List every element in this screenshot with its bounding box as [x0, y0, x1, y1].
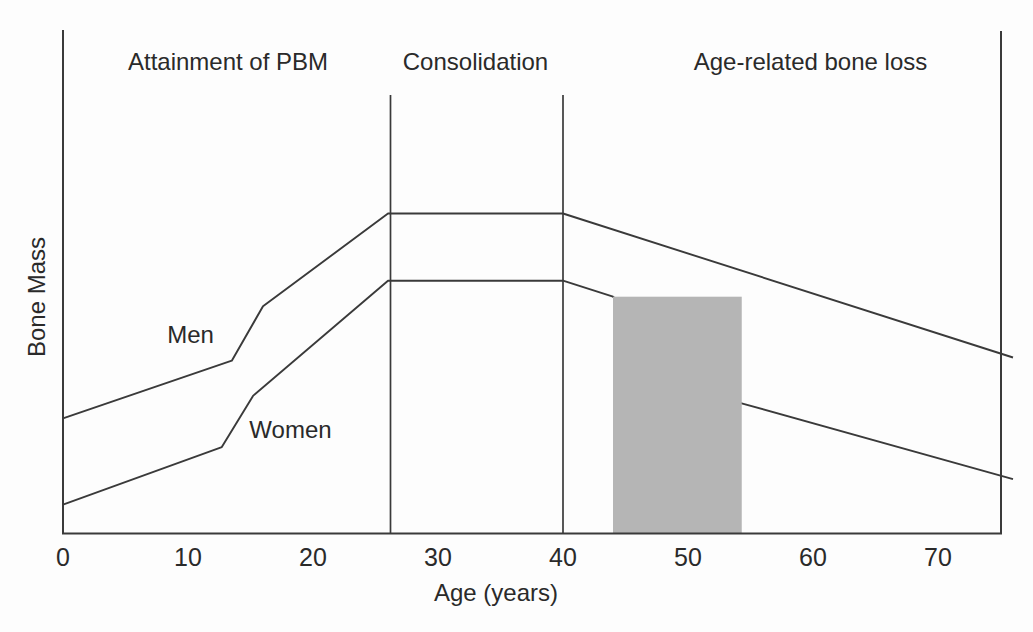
phase-label-attainment: Attainment of PBM	[128, 48, 328, 75]
men-series-label: Men	[167, 321, 214, 348]
phase-label-age-related-loss: Age-related bone loss	[694, 48, 927, 75]
x-tick-label-0: 0	[56, 543, 70, 571]
x-tick-label-50: 50	[674, 543, 702, 571]
women-series-label: Women	[249, 416, 331, 443]
bone-mass-age-chart: Attainment of PBM Consolidation Age-rela…	[0, 0, 1033, 632]
women-curve	[63, 281, 1013, 505]
y-axis-title: Bone Mass	[23, 237, 50, 357]
x-tick-labels: 010203040506070	[56, 543, 952, 571]
x-tick-label-60: 60	[799, 543, 827, 571]
men-curve	[63, 214, 1013, 419]
x-axis-title: Age (years)	[434, 579, 558, 606]
x-tick-label-30: 30	[424, 543, 452, 571]
x-tick-label-20: 20	[299, 543, 327, 571]
shaded-band	[613, 297, 742, 534]
x-tick-label-40: 40	[549, 543, 577, 571]
x-tick-label-70: 70	[924, 543, 952, 571]
phase-label-consolidation: Consolidation	[403, 48, 548, 75]
chart-canvas: Attainment of PBM Consolidation Age-rela…	[0, 0, 1033, 632]
x-tick-label-10: 10	[174, 543, 202, 571]
